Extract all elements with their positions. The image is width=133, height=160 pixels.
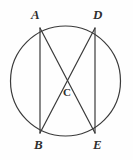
- circle-outline: [11, 26, 121, 136]
- vertex-label-b: B: [34, 138, 43, 151]
- vertex-label-e: E: [93, 138, 102, 151]
- intersection-label-c: C: [63, 87, 71, 98]
- vertex-label-d: D: [93, 8, 102, 21]
- geometry-canvas: [0, 0, 133, 160]
- vertex-label-a: A: [31, 8, 40, 21]
- geometry-figure: A D B E C: [0, 0, 133, 160]
